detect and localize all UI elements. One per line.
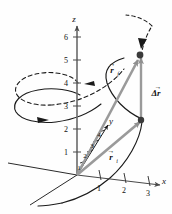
point-final — [137, 52, 144, 59]
helix-solid-lower — [15, 89, 101, 123]
x-tick-3: 3 — [146, 189, 150, 198]
helix-top-dashed-continue — [126, 15, 152, 26]
ground-reference-line — [8, 163, 77, 175]
helix-vector-diagram: z x y 6 5 4 3 2 1 1 2 3 1 2 3 4 r f → r … — [0, 0, 172, 214]
x-axis-label: x — [161, 176, 166, 186]
x-axis-ticks — [99, 170, 150, 186]
z-tick-1: 1 — [64, 148, 68, 157]
axes-group — [8, 26, 160, 205]
y-tick-1: 1 — [77, 164, 81, 172]
helix-curves — [15, 15, 152, 206]
vector-r-initial-label: r i → — [108, 147, 119, 164]
r-initial-arrow-accent: → — [108, 147, 115, 155]
y-tick-2: 2 — [83, 152, 87, 160]
x-tick-1: 1 — [97, 184, 101, 193]
point-initial — [138, 117, 144, 123]
z-tick-5: 5 — [64, 56, 68, 65]
r-initial-subscript: i — [116, 158, 118, 164]
delta-r-arrow-accent: → — [155, 83, 162, 91]
z-tick-4: 4 — [64, 79, 68, 88]
figure-container: z x y 6 5 4 3 2 1 1 2 3 1 2 3 4 r f → r … — [0, 0, 172, 214]
x-tick-2: 2 — [122, 186, 126, 195]
helix-dashed-arrow — [84, 81, 95, 86]
y-tick-4: 4 — [97, 131, 101, 139]
vector-delta-r-label: Δr → — [150, 83, 161, 98]
z-tick-3: 3 — [64, 102, 68, 111]
z-tick-6: 6 — [64, 33, 68, 42]
z-axis-label: z — [71, 14, 76, 24]
r-final-arrow-accent: → — [109, 60, 116, 68]
x-axis — [77, 175, 160, 185]
vector-r-final-label: r f → — [109, 60, 121, 77]
z-tick-2: 2 — [64, 125, 68, 134]
y-axis-label: y — [108, 116, 113, 126]
y-tick-3: 3 — [90, 142, 94, 150]
helix-bottom-arc-tail — [38, 203, 62, 206]
